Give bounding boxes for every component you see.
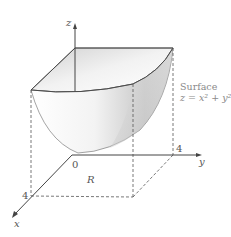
y-tick-4: 4 [176,144,182,154]
x-axis [15,155,72,214]
surface-label: Surface z = x² + y² [180,81,231,103]
z-axis-label: z [66,18,71,28]
y-axis-label: y [199,157,205,167]
x-tick-4: 4 [22,191,28,201]
paraboloid-diagram [0,0,231,237]
origin-label: 0 [72,160,78,170]
x-axis-label: x [14,219,20,229]
region-label: R [87,175,95,185]
z-axis-arrow [73,23,77,29]
surface-equation: z = x² + y² [180,92,231,103]
surface-title: Surface [180,81,231,92]
